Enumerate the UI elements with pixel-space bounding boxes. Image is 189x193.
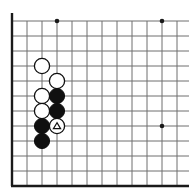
stone-white <box>34 88 49 103</box>
stone-black <box>34 133 49 148</box>
white-stone <box>34 58 49 73</box>
white-stone <box>49 73 64 88</box>
black-stone <box>34 133 49 148</box>
stone-white <box>34 58 49 73</box>
star-point <box>160 124 165 129</box>
stone-white <box>49 73 64 88</box>
black-stone <box>49 103 64 118</box>
stone-white <box>49 118 64 133</box>
white-stone <box>49 118 64 133</box>
stone-black <box>34 118 49 133</box>
black-stone <box>49 88 64 103</box>
white-stone <box>34 103 49 118</box>
stone-white <box>34 103 49 118</box>
go-board-canvas <box>0 0 189 193</box>
black-stone <box>34 118 49 133</box>
stone-black <box>49 103 64 118</box>
white-stone <box>34 88 49 103</box>
go-board-diagram <box>0 0 189 193</box>
stone-black <box>49 88 64 103</box>
star-point <box>55 19 60 24</box>
star-point <box>160 19 165 24</box>
